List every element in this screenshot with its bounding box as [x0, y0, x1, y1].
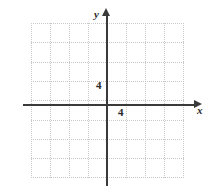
y-axis-tick-label-4: 4	[96, 80, 102, 91]
coordinate-plane-figure: x y 4 4	[0, 0, 210, 196]
y-axis-line	[106, 14, 108, 186]
x-axis-label: x	[197, 105, 203, 116]
x-axis-line	[23, 104, 196, 106]
x-axis-tick-label-4: 4	[118, 107, 124, 118]
y-axis-label: y	[94, 9, 99, 20]
y-axis-arrow-icon	[102, 8, 110, 16]
